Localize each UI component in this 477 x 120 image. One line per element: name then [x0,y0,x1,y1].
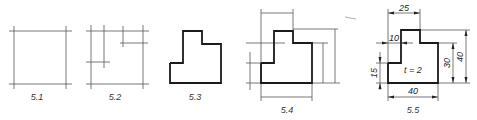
figure-label: 5.3 [189,92,202,102]
figure-label: 5.5 [407,105,421,115]
figure-5-1: 5.1 [9,26,72,102]
arrow-head [388,96,394,99]
figure-label: 5.2 [109,92,122,102]
arrow-head [388,12,394,15]
part-outline [261,31,312,83]
figure-5-4: 5.4 [246,9,340,115]
part-outline [170,31,221,83]
drawing-canvas: 5.1 5.2 5.3 5.4 [0,0,477,120]
dimension-text: 10 [389,33,399,43]
arrow-head [465,77,468,83]
arrow-head [414,12,420,15]
dimension-text: 25 [398,3,410,13]
stray-mark [345,17,356,19]
dimension-text: 15 [369,67,379,78]
figure-label: 5.4 [281,105,294,115]
figure-label: 5.1 [31,92,44,102]
dimension-text: 30 [442,58,452,68]
dimension-text: 40 [455,52,465,62]
arrow-head [465,30,468,36]
figure-5-5: 25 10 15 30 40 40 t = 2 5.5 [369,3,470,115]
arrow-head [379,83,382,89]
dimension-text: 40 [408,86,418,96]
thickness-note: t = 2 [404,65,422,75]
arrow-head [452,77,455,83]
arrow-head [382,42,388,45]
arrow-head [379,57,382,63]
figure-5-3: 5.3 [170,31,221,102]
arrow-head [452,43,455,49]
figure-5-2: 5.2 [86,25,149,102]
arrow-head [432,96,438,99]
